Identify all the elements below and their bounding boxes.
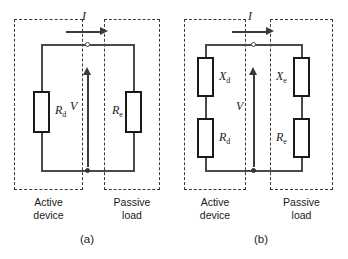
current-label-a: I (82, 10, 86, 22)
panel-b: I V Xd Rd Xe Re Active device Passive lo… (174, 0, 348, 259)
component-subscript: e (283, 76, 287, 85)
active-device-label-b: Active device (184, 196, 246, 222)
component-label-xe-b: Xe (276, 70, 287, 85)
passive-load-line1: Passive (270, 196, 333, 209)
panel-caption-b: (b) (174, 234, 348, 246)
component-subscript: d (226, 137, 230, 146)
component-subscript: d (226, 76, 230, 85)
bottom-terminal-node-a (85, 168, 90, 173)
voltage-label-a: V (70, 100, 77, 112)
component-label-re-b: Re (276, 131, 287, 146)
current-arrow-b (232, 27, 274, 36)
voltage-arrow-a (83, 67, 92, 167)
active-device-line2: device (14, 209, 83, 222)
panel-caption-a: (a) (0, 234, 174, 246)
resistor-re-b (293, 118, 310, 158)
component-label-xd-b: Xd (219, 70, 230, 85)
passive-load-label-a: Passive load (104, 196, 160, 222)
top-terminal-node-b (251, 42, 256, 47)
active-device-line1: Active (14, 196, 83, 209)
reactance-xe-b (293, 57, 310, 97)
resistor-rd-a (33, 91, 50, 133)
resistor-re-a (125, 91, 142, 133)
current-arrow-a (66, 27, 108, 36)
voltage-arrow-b (249, 67, 258, 167)
current-label-b: I (248, 10, 252, 22)
panel-a: I V Rd Re Active device Passive load (a) (0, 0, 174, 259)
passive-load-line1: Passive (104, 196, 160, 209)
component-label-re-a: Re (112, 104, 123, 119)
active-device-label-a: Active device (14, 196, 83, 222)
reactance-xd-b (197, 57, 214, 97)
component-subscript: e (283, 137, 287, 146)
component-label-rd-b: Rd (219, 131, 230, 146)
bottom-terminal-node-b (251, 168, 256, 173)
voltage-label-b: V (236, 100, 243, 112)
resistor-rd-b (197, 118, 214, 158)
passive-load-label-b: Passive load (270, 196, 333, 222)
top-terminal-node-a (85, 42, 90, 47)
active-device-line1: Active (184, 196, 246, 209)
component-subscript: d (62, 110, 66, 119)
component-subscript: e (119, 110, 123, 119)
passive-load-line2: load (104, 209, 160, 222)
circuit-figure: I V Rd Re Active device Passive load (a) (0, 0, 348, 259)
component-label-rd-a: Rd (55, 104, 66, 119)
active-device-line2: device (184, 209, 246, 222)
passive-load-line2: load (270, 209, 333, 222)
